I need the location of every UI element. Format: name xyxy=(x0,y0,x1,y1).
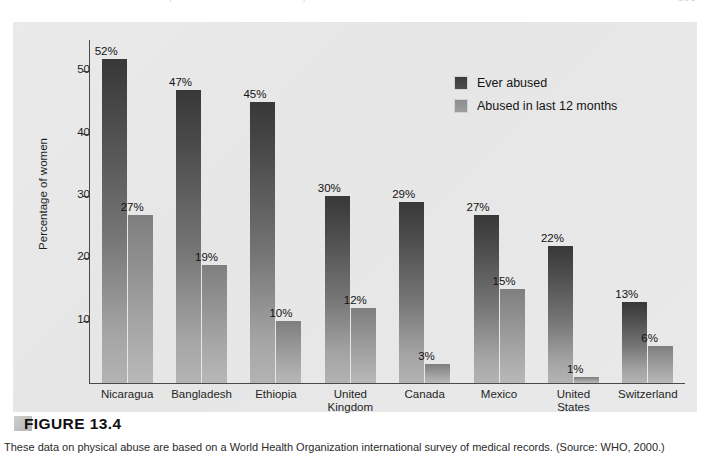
y-axis-tick: 40 xyxy=(13,134,90,135)
bar-value-label: 52% xyxy=(95,45,141,59)
y-axis-tick: 10 xyxy=(13,321,90,322)
y-axis-tick-label: 30 xyxy=(30,188,90,200)
bar-value-label: 47% xyxy=(169,76,215,90)
bar-group: 27%15% xyxy=(462,40,536,383)
bar-group: 29%3% xyxy=(388,40,462,383)
y-axis-tick-label: 40 xyxy=(30,126,90,138)
bar[interactable]: 47% xyxy=(176,90,201,383)
bar[interactable]: 19% xyxy=(202,265,227,383)
x-axis-category-label: Switzerland xyxy=(611,388,685,401)
bar-value-label: 1% xyxy=(567,363,613,377)
x-axis-category-label: Bangladesh xyxy=(164,388,238,401)
figure-caption-text: These data on physical abuse are based o… xyxy=(4,441,706,453)
bar-value-label: 27% xyxy=(121,201,167,215)
bar[interactable]: 15% xyxy=(500,289,525,383)
x-axis-labels: NicaraguaBangladeshEthiopiaUnitedKingdom… xyxy=(90,388,685,420)
y-axis-tick: 30 xyxy=(13,196,90,197)
bar[interactable]: 12% xyxy=(351,308,376,383)
y-axis-tick-label: 50 xyxy=(30,63,90,75)
bar-value-label: 12% xyxy=(344,294,390,308)
bar-value-label: 3% xyxy=(418,350,464,364)
bar[interactable]: 3% xyxy=(425,364,450,383)
bar[interactable]: 45% xyxy=(250,102,275,383)
bar-group: 47%19% xyxy=(164,40,238,383)
y-axis-tick: 50 xyxy=(13,71,90,72)
bar-value-label: 6% xyxy=(641,332,687,346)
bar-group: 52%27% xyxy=(90,40,164,383)
bar-value-label: 13% xyxy=(615,288,661,302)
bar-value-label: 45% xyxy=(243,88,289,102)
bar[interactable]: 52% xyxy=(102,59,127,383)
x-axis-category-label: Nicaragua xyxy=(90,388,164,401)
bar-value-label: 10% xyxy=(269,307,315,321)
running-head: Chapter 13 Gender and Sexuality 505 xyxy=(0,0,710,11)
x-axis-line xyxy=(89,383,685,384)
y-axis-tick-label: 10 xyxy=(30,313,90,325)
bar[interactable]: 1% xyxy=(574,377,599,383)
bar[interactable]: 10% xyxy=(276,321,301,383)
x-axis-category-label: UnitedKingdom xyxy=(313,388,387,414)
bar[interactable]: 6% xyxy=(648,346,673,383)
x-axis-category-label-line: States xyxy=(536,401,610,414)
chart-panel: Percentage of women 1020304050 Ever abus… xyxy=(13,22,697,412)
x-axis-category-label: Canada xyxy=(388,388,462,401)
page-number: 505 xyxy=(678,0,696,3)
y-axis-tick: 20 xyxy=(13,258,90,259)
plot-area: 52%27%47%19%45%10%30%12%29%3%27%15%22%1%… xyxy=(90,40,685,383)
figure-label: FIGURE 13.4 xyxy=(24,415,121,433)
bar-group: 13%6% xyxy=(611,40,685,383)
bar[interactable]: 30% xyxy=(325,196,350,383)
bar[interactable]: 27% xyxy=(128,215,153,383)
bar-group: 22%1% xyxy=(536,40,610,383)
bar-value-label: 29% xyxy=(392,188,438,202)
bar-value-label: 30% xyxy=(318,182,364,196)
y-axis-tick-label: 20 xyxy=(30,250,90,262)
bar-group: 45%10% xyxy=(239,40,313,383)
x-axis-category-label: Ethiopia xyxy=(239,388,313,401)
bar-value-label: 19% xyxy=(195,251,241,265)
x-axis-category-label: Mexico xyxy=(462,388,536,401)
bar-group: 30%12% xyxy=(313,40,387,383)
x-axis-category-label-line: Kingdom xyxy=(313,401,387,414)
bar-value-label: 22% xyxy=(541,232,587,246)
bar[interactable]: 27% xyxy=(474,215,499,383)
running-head-title: Chapter 13 Gender and Sexuality xyxy=(150,0,308,2)
bar-value-label: 27% xyxy=(467,201,513,215)
x-axis-category-label: UnitedStates xyxy=(536,388,610,414)
bar-value-label: 15% xyxy=(493,275,539,289)
